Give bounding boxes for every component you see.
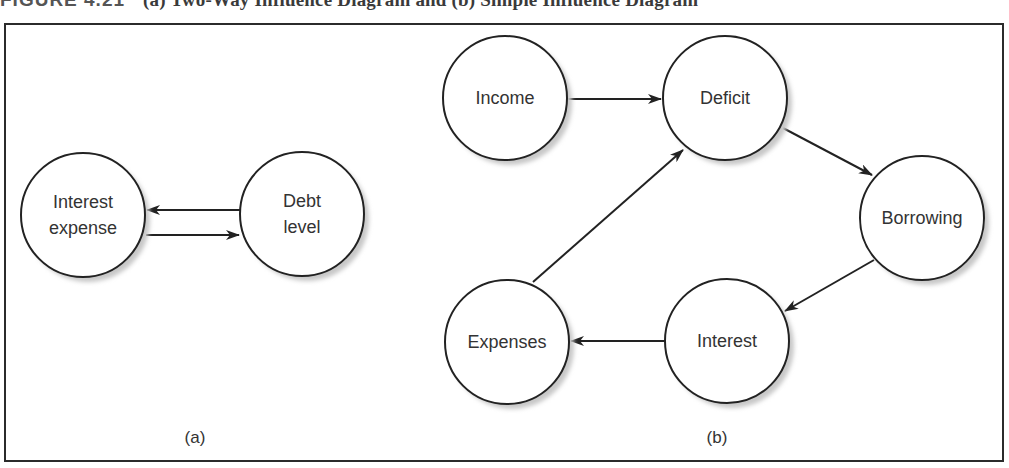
node-debt_level: Debtlevel <box>240 152 369 281</box>
panel-b: IncomeDeficitBorrowingInterestExpenses(b… <box>443 36 989 447</box>
node-interest: Interest <box>665 279 794 408</box>
node-deficit: Deficit <box>663 36 792 165</box>
panel-label-b: (b) <box>707 428 728 447</box>
node-label: Income <box>475 88 534 108</box>
arrow-borrowing-to-interest <box>785 260 874 311</box>
node-borrowing: Borrowing <box>860 156 989 285</box>
node-expenses: Expenses <box>445 280 574 409</box>
panel-a: InterestexpenseDebtlevel(a) <box>21 152 369 447</box>
node-label: Debt <box>283 191 321 211</box>
node-circle <box>21 153 145 277</box>
arrow-expenses-to-deficit <box>533 150 683 282</box>
node-label: Interest <box>697 331 757 351</box>
node-label: Borrowing <box>881 208 962 228</box>
influence-diagram: InterestexpenseDebtlevel(a)IncomeDeficit… <box>0 0 1009 468</box>
arrow-deficit-to-borrowing <box>783 128 872 175</box>
node-label: Deficit <box>700 88 750 108</box>
node-income: Income <box>443 36 572 165</box>
node-label: Interest <box>53 192 113 212</box>
node-label: Expenses <box>467 332 546 352</box>
node-label: expense <box>49 218 117 238</box>
node-interest_expense: Interestexpense <box>21 153 150 282</box>
panel-label-a: (a) <box>185 428 206 447</box>
node-circle <box>240 152 364 276</box>
node-label: level <box>283 217 320 237</box>
